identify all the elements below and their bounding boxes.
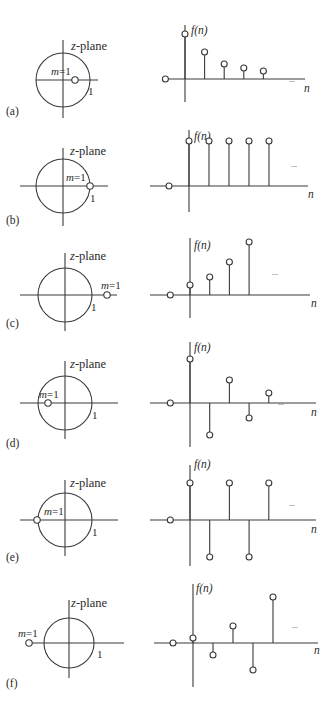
stem-plot: f(n)n... bbox=[150, 341, 317, 447]
f-of-n-label: f(n) bbox=[191, 24, 208, 37]
stem-marker bbox=[230, 623, 236, 629]
z-plane-diagram: z-planem=11(e) bbox=[6, 476, 118, 564]
panel-c: z-planem=11(c)f(n)n... bbox=[6, 238, 317, 331]
unit-radius-label: 1 bbox=[92, 526, 98, 538]
panel-a: z-planem=11(a)f(n)n... bbox=[6, 24, 310, 118]
panel-e: z-planem=11(e)f(n)n... bbox=[6, 458, 317, 566]
stem-marker bbox=[190, 635, 196, 641]
panel-caption: (d) bbox=[6, 437, 20, 450]
pole-label: m=1 bbox=[39, 388, 59, 400]
stem-marker bbox=[206, 138, 212, 144]
stem-marker bbox=[226, 138, 232, 144]
unit-radius-label: 1 bbox=[88, 85, 94, 97]
stem-plot: f(n)n... bbox=[162, 24, 310, 102]
stem-marker bbox=[162, 76, 168, 82]
z-plane-label: z-plane bbox=[69, 357, 107, 371]
stem-marker bbox=[202, 49, 208, 55]
stem-marker bbox=[246, 415, 252, 421]
stem-marker bbox=[246, 239, 252, 245]
pole-label: m=1 bbox=[66, 171, 86, 183]
pole-marker bbox=[104, 292, 110, 298]
pole-marker bbox=[45, 400, 51, 406]
n-axis-label: n bbox=[304, 82, 310, 94]
z-plane-label: z-plane bbox=[70, 596, 108, 610]
f-of-n-label: f(n) bbox=[196, 582, 213, 595]
z-plane-label: z-plane bbox=[69, 144, 107, 158]
stem-marker bbox=[170, 640, 176, 646]
stem-marker bbox=[167, 292, 173, 298]
pole-marker bbox=[34, 517, 40, 523]
stem-marker bbox=[167, 517, 173, 523]
z-plane-diagram: z-planem=11(d) bbox=[6, 357, 118, 450]
f-of-n-label: f(n) bbox=[194, 239, 211, 252]
pole-marker bbox=[26, 640, 32, 646]
pole-label: m=1 bbox=[101, 279, 121, 291]
z-plane-diagram: z-planem=11(f) bbox=[6, 596, 124, 690]
continuation-ellipsis: ... bbox=[278, 398, 284, 407]
stem-marker bbox=[241, 65, 247, 71]
stem-marker bbox=[207, 274, 213, 280]
stem-plot: f(n)n... bbox=[150, 238, 317, 318]
panel-b: z-planem=11(b)f(n)n... bbox=[6, 130, 314, 227]
panel-caption: (c) bbox=[6, 317, 19, 330]
stem-marker bbox=[167, 400, 173, 406]
stem-marker bbox=[221, 61, 227, 67]
stem-marker bbox=[166, 183, 172, 189]
continuation-ellipsis: ... bbox=[291, 160, 297, 169]
stem-marker bbox=[207, 432, 213, 438]
stem-marker bbox=[270, 594, 276, 600]
stem-plot: f(n)n... bbox=[150, 458, 317, 566]
panel-d: z-planem=11(d)f(n)n... bbox=[6, 341, 317, 450]
stem-marker bbox=[187, 282, 193, 288]
stem-marker bbox=[182, 31, 188, 37]
stem-plot: f(n)n... bbox=[150, 130, 314, 212]
panel-caption: (b) bbox=[6, 214, 20, 227]
stem-marker bbox=[250, 667, 256, 673]
panel-caption: (e) bbox=[6, 551, 19, 564]
continuation-ellipsis: ... bbox=[289, 499, 295, 508]
continuation-ellipsis: ... bbox=[292, 621, 298, 630]
stem-marker bbox=[246, 138, 252, 144]
unit-radius-label: 1 bbox=[97, 648, 103, 660]
stem-plot: f(n)n... bbox=[154, 582, 320, 687]
f-of-n-label: f(n) bbox=[194, 341, 211, 354]
continuation-ellipsis: ... bbox=[272, 268, 278, 277]
pole-label: m=1 bbox=[44, 505, 64, 517]
pole-marker bbox=[87, 183, 93, 189]
z-plane-diagram: z-planem=11(b) bbox=[6, 144, 108, 227]
z-plane-label: z-plane bbox=[69, 249, 107, 263]
stem-marker bbox=[266, 138, 272, 144]
stem-marker bbox=[226, 259, 232, 265]
figure-canvas: z-planem=11(a)f(n)n...z-planem=11(b)f(n)… bbox=[0, 0, 334, 704]
stem-marker bbox=[226, 480, 232, 486]
continuation-ellipsis: ... bbox=[289, 75, 295, 84]
f-of-n-label: f(n) bbox=[194, 458, 211, 471]
z-plane-label: z-plane bbox=[69, 476, 107, 490]
n-axis-label: n bbox=[314, 644, 320, 656]
stem-marker bbox=[226, 377, 232, 383]
stem-marker bbox=[246, 554, 252, 560]
panel-f: z-planem=11(f)f(n)n... bbox=[6, 582, 320, 690]
stem-marker bbox=[187, 356, 193, 362]
unit-radius-label: 1 bbox=[91, 301, 97, 313]
unit-radius-label: 1 bbox=[90, 192, 96, 204]
unit-radius-label: 1 bbox=[92, 409, 98, 421]
n-axis-label: n bbox=[308, 188, 314, 200]
pole-marker bbox=[72, 77, 78, 83]
z-plane-diagram: z-planem=11(a) bbox=[6, 39, 108, 118]
stem-marker bbox=[260, 68, 266, 74]
stem-marker bbox=[187, 480, 193, 486]
stem-marker bbox=[186, 138, 192, 144]
n-axis-label: n bbox=[311, 406, 317, 418]
n-axis-label: n bbox=[311, 523, 317, 535]
panel-caption: (a) bbox=[6, 105, 19, 118]
panel-caption: (f) bbox=[6, 677, 18, 690]
z-plane-diagram: z-planem=11(c) bbox=[6, 249, 121, 331]
pole-label: m=1 bbox=[18, 627, 38, 639]
z-plane-label: z-plane bbox=[70, 39, 108, 53]
stem-marker bbox=[266, 390, 272, 396]
stem-marker bbox=[207, 554, 213, 560]
stem-marker bbox=[210, 652, 216, 658]
n-axis-label: n bbox=[311, 297, 317, 309]
stem-marker bbox=[266, 480, 272, 486]
